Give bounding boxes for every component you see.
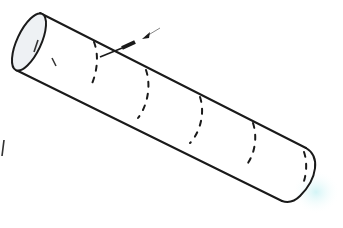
mark-2 (52, 58, 56, 66)
tube-bottom-edge (16, 70, 282, 201)
diagram-canvas (0, 0, 343, 228)
tube (5, 9, 315, 202)
dashed-ring-2 (138, 70, 148, 118)
tube-top-edge (40, 13, 306, 148)
dashed-ring-3 (190, 97, 202, 143)
glow-blob (292, 170, 340, 214)
arrow-head-icon (142, 32, 150, 39)
cylinder-diagram (0, 0, 343, 228)
tube-left-opening (5, 9, 53, 75)
needle-barrel (122, 42, 135, 48)
dashed-ring-4 (244, 123, 255, 168)
mark-3 (2, 140, 4, 156)
cross-section-rings (90, 42, 306, 186)
needle-arrow (100, 28, 160, 57)
dashed-ring-1 (90, 42, 97, 88)
